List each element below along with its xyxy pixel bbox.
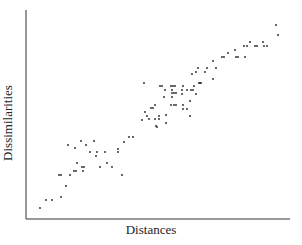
data-point	[93, 140, 95, 142]
data-point	[150, 107, 152, 109]
data-point	[60, 196, 62, 198]
data-point	[144, 111, 146, 113]
data-point	[76, 162, 78, 164]
data-point	[85, 144, 87, 146]
data-point	[95, 155, 97, 157]
data-point	[181, 89, 183, 91]
data-point	[152, 107, 154, 109]
data-point	[156, 126, 158, 128]
data-point	[117, 151, 119, 153]
data-point	[60, 174, 62, 176]
data-point	[221, 56, 223, 58]
data-point	[80, 140, 82, 142]
data-point	[191, 73, 193, 75]
data-point	[254, 45, 256, 47]
data-point	[234, 49, 236, 51]
data-point	[186, 89, 188, 91]
y-axis-label: Dissimilarities	[0, 68, 16, 178]
data-point	[227, 52, 229, 54]
data-point	[165, 122, 167, 124]
data-point	[170, 104, 172, 106]
data-point	[128, 136, 130, 138]
data-point	[89, 151, 91, 153]
data-point	[143, 82, 145, 84]
data-point	[189, 100, 191, 102]
data-point	[182, 104, 184, 106]
data-point	[96, 151, 98, 153]
data-point	[164, 89, 166, 91]
data-point	[45, 199, 47, 201]
data-point	[82, 170, 84, 172]
data-point	[195, 93, 197, 95]
data-point	[262, 41, 264, 43]
data-point	[263, 45, 265, 47]
data-point	[171, 92, 173, 94]
data-point	[158, 118, 160, 120]
data-point	[51, 199, 53, 201]
data-point	[99, 166, 101, 168]
data-point	[158, 115, 160, 117]
data-point	[172, 85, 174, 87]
data-point	[223, 56, 225, 58]
data-point	[190, 89, 192, 91]
data-point	[163, 96, 165, 98]
data-point	[235, 56, 237, 58]
data-point	[141, 119, 143, 121]
data-point	[106, 162, 108, 164]
data-point	[81, 166, 83, 168]
data-point	[75, 170, 77, 172]
data-point	[244, 56, 246, 58]
data-point	[277, 34, 279, 36]
data-point	[173, 104, 175, 106]
data-point	[212, 78, 214, 80]
data-point	[243, 45, 245, 47]
data-point	[148, 118, 150, 120]
data-point	[173, 92, 175, 94]
data-point	[83, 166, 85, 168]
scatter-plot	[0, 0, 302, 245]
data-point	[170, 85, 172, 87]
data-point	[39, 207, 41, 209]
data-point	[200, 82, 202, 84]
data-point	[206, 67, 208, 69]
data-point	[197, 67, 199, 69]
data-point	[132, 136, 134, 138]
data-point	[117, 148, 119, 150]
data-point	[256, 45, 258, 47]
data-point	[237, 56, 239, 58]
data-point	[175, 92, 177, 94]
data-point	[161, 85, 163, 87]
data-point	[165, 114, 167, 116]
data-point	[186, 108, 188, 110]
data-point	[195, 71, 197, 73]
data-point	[154, 104, 156, 106]
data-point	[123, 141, 125, 143]
x-axis-label: Distances	[0, 222, 302, 238]
data-point	[249, 41, 251, 43]
data-point	[58, 174, 60, 176]
data-point	[154, 118, 156, 120]
data-point	[67, 144, 69, 146]
data-point	[174, 85, 176, 87]
data-point	[182, 85, 184, 87]
data-point	[171, 96, 173, 98]
data-point	[275, 24, 277, 26]
data-point	[246, 45, 248, 47]
data-point	[104, 151, 106, 153]
data-point	[181, 93, 183, 95]
data-point	[212, 60, 214, 62]
data-point	[182, 108, 184, 110]
data-point	[175, 104, 177, 106]
data-point	[204, 71, 206, 73]
data-point	[65, 185, 67, 187]
data-point	[73, 170, 75, 172]
data-points	[39, 24, 279, 209]
data-point	[266, 45, 268, 47]
data-point	[171, 89, 173, 91]
data-point	[111, 166, 113, 168]
data-point	[69, 174, 71, 176]
data-point	[159, 85, 161, 87]
data-point	[215, 67, 217, 69]
data-point	[192, 89, 194, 91]
data-point	[74, 147, 76, 149]
